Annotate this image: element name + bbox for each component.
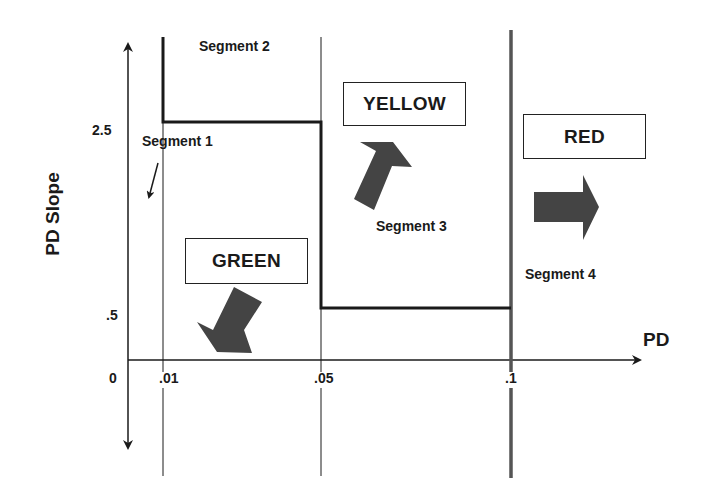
green-zone-box: GREEN [185, 238, 308, 284]
diagram-canvas [0, 0, 710, 501]
x-tick-05: .05 [314, 370, 333, 386]
segment-4-label: Segment 4 [525, 266, 596, 282]
y-tick-0-5: .5 [106, 307, 118, 323]
segment-1-label: Segment 1 [142, 133, 213, 149]
y-tick-2-5: 2.5 [92, 122, 111, 138]
yellow-zone-box: YELLOW [343, 82, 466, 126]
x-tick-01: .01 [159, 370, 178, 386]
red-arrow-icon [534, 175, 599, 240]
origin-label: 0 [109, 370, 117, 386]
green-arrow-icon [197, 287, 262, 353]
segment-2-label: Segment 2 [199, 38, 270, 54]
yellow-arrow-icon [354, 142, 412, 210]
x-tick-1: .1 [505, 370, 517, 386]
y-axis-label: PD Slope [42, 169, 64, 259]
red-zone-box: RED [523, 114, 646, 159]
x-axis-label: PD [643, 329, 669, 351]
segment-3-label: Segment 3 [376, 218, 447, 234]
segment-1-pointer [149, 163, 158, 197]
